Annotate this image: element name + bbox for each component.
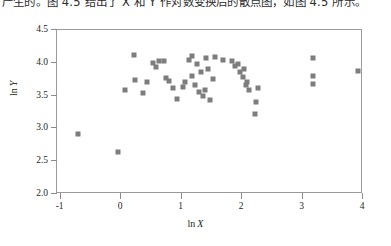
plot-area — [56, 29, 362, 193]
data-point — [311, 73, 316, 78]
data-point — [123, 88, 128, 93]
data-point — [198, 69, 203, 74]
data-point — [311, 81, 316, 86]
data-point — [171, 86, 176, 91]
x-axis-tick — [302, 193, 303, 199]
data-point — [133, 77, 138, 82]
x-axis-tick-label: 1 — [166, 201, 196, 211]
y-axis-tick-label: 4.0 — [18, 57, 48, 67]
y-axis-tick — [51, 160, 57, 161]
data-point — [153, 65, 158, 70]
y-axis-tick — [51, 193, 57, 194]
y-axis-tick-label: 2.0 — [18, 188, 48, 198]
y-axis-title: ln Y — [8, 81, 19, 96]
data-point — [132, 52, 137, 57]
data-point — [356, 68, 361, 73]
x-axis-tick-label: 2 — [226, 201, 256, 211]
data-point — [202, 87, 207, 92]
data-point — [195, 62, 200, 67]
y-axis-tick-label: 3.0 — [18, 122, 48, 132]
x-axis-tick — [120, 193, 121, 199]
data-point — [206, 66, 211, 71]
y-axis-tick-label: 3.5 — [18, 90, 48, 100]
data-point — [145, 79, 150, 84]
data-point — [220, 58, 225, 63]
data-point — [256, 85, 261, 90]
x-axis-tick — [362, 193, 363, 199]
data-point — [140, 90, 145, 95]
x-axis-title-text: ln X — [188, 218, 204, 229]
data-point — [116, 150, 121, 155]
y-axis-tick — [51, 62, 57, 63]
data-point — [213, 54, 218, 59]
data-points-layer — [57, 30, 361, 192]
data-point — [182, 79, 187, 84]
y-axis-tick-label: 4.5 — [18, 24, 48, 34]
data-point — [166, 78, 171, 83]
x-axis-tick-label: 0 — [105, 201, 135, 211]
data-point — [175, 96, 180, 101]
x-axis-tick — [60, 193, 61, 199]
data-point — [201, 94, 206, 99]
x-axis-tick-label: -1 — [45, 201, 75, 211]
x-axis-title: ln X — [0, 218, 391, 229]
data-point — [204, 56, 209, 61]
data-point — [180, 85, 185, 90]
data-point — [211, 76, 216, 81]
y-axis-tick — [51, 127, 57, 128]
data-point — [253, 111, 258, 116]
x-axis-tick-label: 4 — [347, 201, 377, 211]
data-point — [190, 73, 195, 78]
data-point — [208, 97, 213, 102]
x-axis-tick — [241, 193, 242, 199]
x-axis-tick-label: 3 — [287, 201, 317, 211]
data-point — [162, 58, 167, 63]
data-point — [247, 88, 252, 93]
data-point — [189, 53, 194, 58]
y-axis-tick — [51, 95, 57, 96]
y-axis-tick-labels: 2.02.53.03.54.04.5 — [16, 0, 48, 246]
figure-page: 产生的。图 4.5 给出了 X 和 Y 作对数变换后的散点图，如图 4.5 所示… — [0, 0, 391, 246]
data-point — [192, 83, 197, 88]
data-point — [311, 55, 316, 60]
data-point — [75, 131, 80, 136]
y-axis-title-text: ln Y — [8, 81, 19, 96]
y-axis-tick-label: 2.5 — [18, 155, 48, 165]
data-point — [235, 62, 240, 67]
data-point — [241, 67, 246, 72]
data-point — [156, 59, 161, 64]
data-point — [245, 79, 250, 84]
y-axis-tick — [51, 29, 57, 30]
x-axis-tick — [181, 193, 182, 199]
data-point — [253, 100, 258, 105]
scatter-chart: 2.02.53.03.54.04.5 -101234 ln Y ln X — [0, 0, 391, 246]
